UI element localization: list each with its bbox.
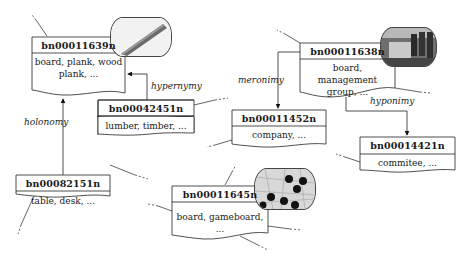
node-synonyms-line: board, gameboard, ... (174, 211, 266, 235)
edge-label-meronimy: meronimy (238, 75, 284, 85)
node-id: bn00011639n (32, 40, 125, 51)
node-synonyms-line: lumber, timber, ... (100, 120, 192, 132)
node-id: bn00011452n (232, 113, 326, 124)
node-synonyms-line: plank, ... (34, 68, 123, 80)
edge-label-hypernymy: hypernymy (151, 81, 202, 91)
node-bn00011452n: bn00011452n company, ... (232, 110, 326, 147)
node-bn00014421n: bn00014421n commitee, ... (360, 137, 455, 173)
node-id: bn00082151n (16, 178, 110, 189)
node-bn00042451n: bn00042451n lumber, timber, ... (98, 100, 194, 135)
semantic-network-diagram: bn00011639n board, plank, wood plank, ..… (0, 0, 471, 265)
node-id: bn00011638n (300, 46, 395, 57)
node-synonyms-line: commitee, ... (362, 157, 453, 169)
node-synonyms-line: company, ... (234, 129, 324, 141)
node-bn00082151n: bn00082151n table, desk, ... (16, 175, 110, 197)
node-bn00011645n: bn00011645n board, gameboard, ... (172, 186, 268, 239)
node-id: bn00042451n (98, 103, 194, 114)
edge-label-hyponimy: hyponimy (370, 96, 414, 106)
node-synonyms-line: board, management (302, 62, 393, 86)
node-synonyms-line: table, desk, ... (18, 195, 108, 207)
node-id: bn00014421n (360, 140, 455, 151)
edge-label-holonomy: holonomy (24, 117, 68, 127)
node-bn00011638n: bn00011638n board, management group, ... (300, 43, 395, 97)
node-bn00011639n: bn00011639n board, plank, wood plank, ..… (32, 37, 125, 95)
node-synonyms-line: board, plank, wood (34, 56, 123, 68)
node-id: bn00011645n (172, 189, 268, 200)
